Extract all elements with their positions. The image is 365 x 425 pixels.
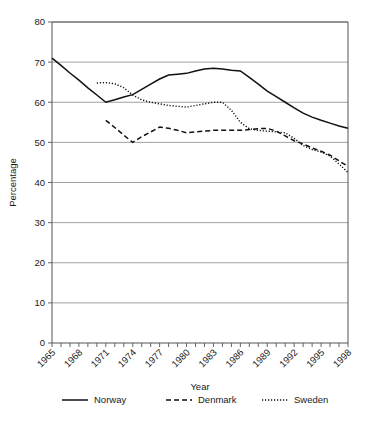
legend-label-denmark: Denmark (198, 394, 237, 405)
y-tick-label-70: 70 (34, 57, 45, 68)
x-tick-label-1983: 1983 (196, 347, 219, 370)
x-axis-tick-labels: 1965196819711974197719801983198619891992… (35, 347, 354, 370)
gridlines-group (52, 22, 348, 303)
y-tick-label-0: 0 (40, 337, 45, 348)
chart-canvas: 01020304050607080 1965196819711974197719… (0, 0, 365, 425)
x-tick-label-1980: 1980 (169, 347, 192, 370)
y-tick-label-50: 50 (34, 137, 45, 148)
x-axis-title: Year (190, 381, 209, 392)
series-line-denmark (106, 120, 348, 166)
line-chart: 01020304050607080 1965196819711974197719… (0, 0, 365, 425)
y-axis-ticks (48, 22, 52, 343)
legend-label-norway: Norway (94, 394, 126, 405)
series-group (52, 58, 348, 172)
y-tick-label-80: 80 (34, 16, 45, 27)
x-tick-label-1989: 1989 (250, 347, 273, 370)
legend-label-sweden: Sweden (294, 394, 328, 405)
x-tick-label-1974: 1974 (115, 347, 138, 370)
x-tick-label-1977: 1977 (142, 347, 165, 370)
x-tick-label-1995: 1995 (304, 347, 327, 370)
x-tick-label-1986: 1986 (223, 347, 246, 370)
y-tick-label-10: 10 (34, 297, 45, 308)
x-tick-label-1992: 1992 (277, 347, 300, 370)
y-axis-tick-labels: 01020304050607080 (34, 16, 45, 348)
y-tick-label-30: 30 (34, 217, 45, 228)
y-tick-label-40: 40 (34, 177, 45, 188)
x-tick-label-1998: 1998 (331, 347, 354, 370)
x-tick-label-1968: 1968 (62, 347, 85, 370)
y-tick-label-20: 20 (34, 257, 45, 268)
series-line-sweden (97, 83, 348, 173)
y-axis-title: Percentage (7, 158, 18, 207)
series-line-norway (52, 58, 348, 128)
x-axis-ticks (52, 343, 348, 347)
chart-legend: NorwayDenmarkSweden (62, 394, 328, 405)
x-tick-label-1971: 1971 (89, 347, 112, 370)
x-tick-label-1965: 1965 (35, 347, 58, 370)
y-tick-label-60: 60 (34, 97, 45, 108)
